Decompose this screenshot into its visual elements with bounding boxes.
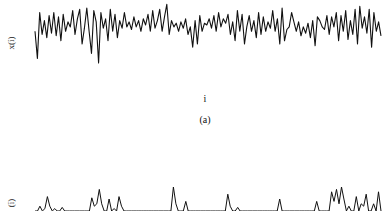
panel-caption-a: (a): [185, 114, 225, 125]
chart-panel-a: x(i) i (a): [0, 0, 383, 130]
chart-panel-b: (i): [0, 160, 383, 211]
trace-a: [0, 0, 383, 90]
trace-b: [0, 160, 383, 211]
x-axis-label-a: i: [195, 93, 215, 104]
